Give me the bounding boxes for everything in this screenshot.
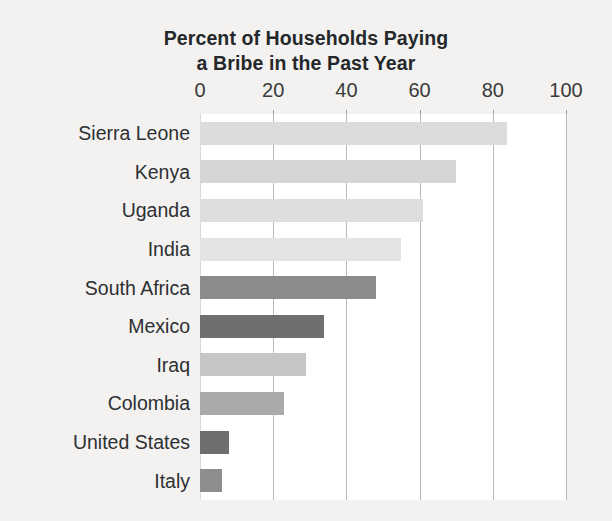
bar-category-label: Mexico xyxy=(0,315,190,337)
bar[interactable] xyxy=(200,392,284,415)
bar[interactable] xyxy=(200,469,222,492)
bar-category-label: India xyxy=(0,238,190,260)
bar[interactable] xyxy=(200,160,456,183)
bar[interactable] xyxy=(200,431,229,454)
bottom-margin xyxy=(0,502,612,521)
bar-category-label: Kenya xyxy=(0,161,190,183)
bar-row[interactable]: Kenya xyxy=(0,153,612,192)
bar-row[interactable]: Colombia xyxy=(0,384,612,423)
bar[interactable] xyxy=(200,238,401,261)
bar-category-label: Sierra Leone xyxy=(0,122,190,144)
bar-row[interactable]: Mexico xyxy=(0,307,612,346)
bar-row[interactable]: Italy xyxy=(0,461,612,500)
bar-row[interactable]: United States xyxy=(0,423,612,462)
bar-category-label: Iraq xyxy=(0,354,190,376)
bar-row[interactable]: India xyxy=(0,230,612,269)
bar[interactable] xyxy=(200,122,507,145)
bar-row[interactable]: Iraq xyxy=(0,346,612,385)
bar[interactable] xyxy=(200,199,423,222)
bar-category-label: Italy xyxy=(0,470,190,492)
bar-category-label: South Africa xyxy=(0,277,190,299)
bar-row[interactable]: Sierra Leone xyxy=(0,114,612,153)
bar-row[interactable]: Uganda xyxy=(0,191,612,230)
bar-category-label: Uganda xyxy=(0,199,190,221)
bar[interactable] xyxy=(200,353,306,376)
bar-rows: Sierra LeoneKenyaUgandaIndiaSouth Africa… xyxy=(0,0,612,521)
bar-chart: Percent of Households Paying a Bribe in … xyxy=(0,0,612,521)
bar[interactable] xyxy=(200,315,324,338)
bar-row[interactable]: South Africa xyxy=(0,268,612,307)
bar-category-label: United States xyxy=(0,431,190,453)
bar-category-label: Colombia xyxy=(0,392,190,414)
bar[interactable] xyxy=(200,276,376,299)
